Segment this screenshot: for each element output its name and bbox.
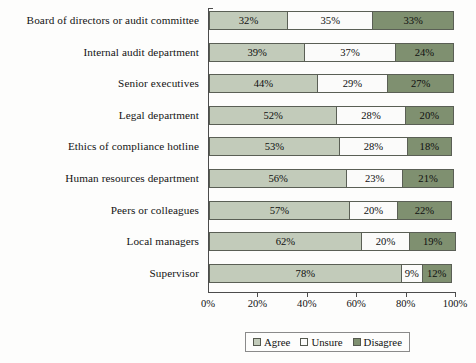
bar-value-label: 28%: [361, 110, 380, 121]
x-axis-tick-label: 0%: [201, 297, 215, 310]
category-label: Legal department: [0, 109, 199, 122]
x-axis-tick-label: 80%: [396, 297, 415, 310]
bar-value-label: 29%: [343, 78, 362, 89]
bar-value-label: 12%: [427, 268, 446, 279]
category-label: Board of directors or audit committee: [0, 14, 199, 27]
bar-segment-agree: 52%: [209, 106, 337, 125]
legend-item: Agree: [253, 336, 290, 348]
bar-segment-agree: 57%: [209, 201, 350, 220]
bar-segment-agree: 56%: [209, 169, 347, 188]
legend-swatch-disagree-icon: [353, 338, 361, 346]
bar-row: 53%28%18%: [209, 137, 456, 156]
category-label: Peers or colleagues: [0, 204, 199, 217]
category-label: Human resources department: [0, 172, 199, 185]
bar-value-label: 19%: [423, 236, 442, 247]
bar-segment-disagree: 24%: [395, 43, 454, 62]
x-axis-tick-label: 40%: [297, 297, 316, 310]
bar-segment-agree: 62%: [209, 232, 362, 251]
x-axis-tick: [257, 293, 258, 297]
bar-segment-unsure: 9%: [401, 264, 423, 283]
bar-row: 32%35%33%: [209, 11, 456, 30]
bar-value-label: 27%: [411, 78, 430, 89]
bar-segment-disagree: 21%: [402, 169, 454, 188]
plot-area: 32%35%33%39%37%24%44%29%27%52%28%20%53%2…: [208, 8, 455, 293]
bar-value-label: 9%: [405, 268, 419, 279]
bar-row: 62%20%19%: [209, 232, 456, 251]
bar-segment-agree: 44%: [209, 74, 318, 93]
x-axis-tick: [455, 293, 456, 297]
bar-value-label: 53%: [265, 141, 284, 152]
bar-value-label: 37%: [340, 47, 359, 58]
bar-row: 78%9%12%: [209, 264, 456, 283]
bar-segment-agree: 39%: [209, 43, 305, 62]
bar-row: 57%20%22%: [209, 201, 456, 220]
bar-value-label: 20%: [364, 205, 383, 216]
x-axis-tick-label: 100%: [443, 297, 468, 310]
legend-item: Disagree: [353, 336, 402, 348]
bar-segment-disagree: 18%: [407, 137, 451, 156]
legend-swatch-agree-icon: [253, 338, 261, 346]
bar-value-label: 20%: [420, 110, 439, 121]
category-label: Ethics of compliance hotline: [0, 140, 199, 153]
bar-segment-disagree: 12%: [422, 264, 452, 283]
x-axis-tick: [307, 293, 308, 297]
chart-legend: AgreeUnsureDisagree: [245, 332, 410, 352]
y-axis-top-tick: [208, 8, 213, 9]
bar-value-label: 62%: [276, 236, 295, 247]
bar-segment-unsure: 35%: [287, 11, 373, 30]
x-axis-tick: [406, 293, 407, 297]
x-axis-line: [208, 292, 456, 293]
legend-swatch-unsure-icon: [300, 338, 308, 346]
bar-value-label: 33%: [404, 15, 423, 26]
bar-segment-disagree: 27%: [387, 74, 454, 93]
bar-segment-agree: 32%: [209, 11, 288, 30]
bar-row: 52%28%20%: [209, 106, 456, 125]
legend-label: Disagree: [364, 336, 402, 348]
bar-value-label: 24%: [415, 47, 434, 58]
bar-value-label: 21%: [418, 173, 437, 184]
bar-row: 39%37%24%: [209, 43, 456, 62]
category-label: Local managers: [0, 235, 199, 248]
bar-segment-disagree: 19%: [409, 232, 456, 251]
bar-value-label: 28%: [364, 141, 383, 152]
bar-segment-disagree: 22%: [397, 201, 451, 220]
bar-segment-agree: 53%: [209, 137, 340, 156]
bar-value-label: 20%: [376, 236, 395, 247]
bar-value-label: 35%: [321, 15, 340, 26]
bar-value-label: 78%: [296, 268, 315, 279]
legend-label: Unsure: [311, 336, 342, 348]
bar-value-label: 39%: [247, 47, 266, 58]
category-axis-labels: Board of directors or audit committeeInt…: [0, 8, 203, 293]
bar-segment-disagree: 20%: [405, 106, 454, 125]
stacked-bar-chart: Board of directors or audit committeeInt…: [0, 0, 476, 363]
category-label: Internal audit department: [0, 46, 199, 59]
bar-value-label: 23%: [365, 173, 384, 184]
bar-segment-unsure: 29%: [317, 74, 389, 93]
bar-value-label: 56%: [268, 173, 287, 184]
bar-segment-unsure: 20%: [361, 232, 410, 251]
bar-value-label: 18%: [420, 141, 439, 152]
x-axis-tick-label: 20%: [248, 297, 267, 310]
bar-row: 56%23%21%: [209, 169, 456, 188]
bar-segment-unsure: 20%: [349, 201, 398, 220]
bar-segment-unsure: 28%: [336, 106, 405, 125]
bar-segment-unsure: 37%: [304, 43, 395, 62]
x-axis-tick: [356, 293, 357, 297]
category-label: Supervisor: [0, 267, 199, 280]
bar-segment-unsure: 23%: [346, 169, 403, 188]
bar-value-label: 44%: [254, 78, 273, 89]
legend-label: Agree: [264, 336, 290, 348]
legend-item: Unsure: [300, 336, 342, 348]
bar-value-label: 57%: [270, 205, 289, 216]
bar-value-label: 32%: [239, 15, 258, 26]
bar-value-label: 52%: [264, 110, 283, 121]
bar-row: 44%29%27%: [209, 74, 456, 93]
category-label: Senior executives: [0, 77, 199, 90]
bar-value-label: 22%: [415, 205, 434, 216]
bar-segment-disagree: 33%: [372, 11, 454, 30]
x-axis-tick-label: 60%: [346, 297, 365, 310]
bar-segment-agree: 78%: [209, 264, 402, 283]
x-axis-tick-labels: 0%20%40%60%80%100%: [208, 297, 456, 312]
bar-segment-unsure: 28%: [339, 137, 408, 156]
